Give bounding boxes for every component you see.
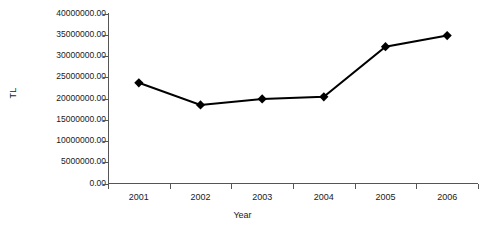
line-chart: TL 0.005000000.0010000000.0015000000.002… xyxy=(0,0,485,233)
data-point-marker xyxy=(196,100,205,109)
x-tick-mark xyxy=(231,184,232,189)
x-tick-label: 2002 xyxy=(171,192,231,203)
series-line xyxy=(139,36,447,105)
y-tick-mark xyxy=(103,14,108,15)
y-tick-mark xyxy=(103,141,108,142)
x-axis-title: Year xyxy=(0,210,485,221)
y-tick-mark xyxy=(103,120,108,121)
x-tick-label: 2006 xyxy=(417,192,477,203)
x-tick-mark xyxy=(355,184,356,189)
y-tick-mark xyxy=(103,99,108,100)
y-tick-mark xyxy=(103,56,108,57)
x-tick-mark xyxy=(478,184,479,189)
x-tick-label: 2001 xyxy=(109,192,169,203)
y-tick-mark xyxy=(103,35,108,36)
x-axis-tick-labels: 200120022003200420052006 xyxy=(0,192,485,206)
data-point-marker xyxy=(134,78,143,87)
data-point-marker xyxy=(443,31,452,40)
data-point-marker xyxy=(258,94,267,103)
x-tick-label: 2004 xyxy=(294,192,354,203)
x-tick-mark xyxy=(293,184,294,189)
x-tick-label: 2005 xyxy=(356,192,416,203)
y-tick-mark xyxy=(103,77,108,78)
y-tick-mark xyxy=(103,162,108,163)
x-tick-mark xyxy=(170,184,171,189)
x-tick-mark xyxy=(416,184,417,189)
x-tick-label: 2003 xyxy=(232,192,292,203)
x-tick-mark xyxy=(108,184,109,189)
